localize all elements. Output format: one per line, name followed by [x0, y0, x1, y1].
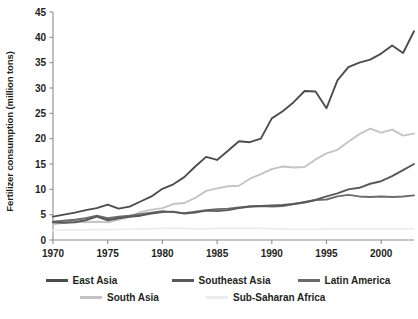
fertilizer-consumption-chart: Fertilizer consumption (million tons) 05… — [0, 0, 418, 319]
x-tick-label: 1975 — [97, 248, 120, 259]
legend-swatch-east-asia — [46, 279, 68, 282]
chart-svg: 051015202530354045 197019751980198519901… — [18, 0, 418, 268]
y-tick-label: 35 — [35, 57, 47, 68]
legend-label-latin-america: Latin America — [325, 275, 391, 286]
legend-label-sub-saharan-africa: Sub-Saharan Africa — [233, 292, 325, 303]
legend-swatch-southeast-asia — [172, 279, 194, 282]
x-tick-marks — [53, 240, 381, 244]
series-line-southeast-asia — [53, 164, 414, 223]
y-tick-label: 30 — [35, 83, 47, 94]
x-tick-labels: 1970197519801985199019952000 — [42, 248, 393, 259]
y-tick-label: 20 — [35, 133, 47, 144]
x-tick-label: 1990 — [261, 248, 284, 259]
plot-area: 051015202530354045 197019751980198519901… — [18, 0, 418, 268]
legend-item-southeast-asia[interactable]: Southeast Asia — [172, 275, 280, 286]
legend-swatch-latin-america — [298, 279, 320, 282]
legend-label-east-asia: East Asia — [73, 275, 118, 286]
y-tick-label: 5 — [40, 209, 46, 220]
series-line-sub-saharan-africa — [53, 228, 414, 230]
y-tick-labels: 051015202530354045 — [35, 7, 47, 246]
data-series-group — [53, 31, 414, 230]
y-tick-label: 45 — [35, 7, 47, 18]
legend-label-southeast-asia: Southeast Asia — [199, 275, 271, 286]
y-axis-label: Fertilizer consumption (million tons) — [0, 0, 18, 262]
legend-swatch-south-asia — [80, 296, 102, 299]
y-tick-label: 10 — [35, 184, 47, 195]
y-tick-label: 40 — [35, 32, 47, 43]
legend-row-1: East Asia Southeast Asia Latin America — [18, 272, 418, 289]
series-line-east-asia — [53, 31, 414, 216]
x-tick-label: 1985 — [206, 248, 229, 259]
x-tick-label: 2000 — [370, 248, 393, 259]
y-tick-label: 25 — [35, 108, 47, 119]
legend-swatch-sub-saharan-africa — [206, 296, 228, 299]
legend-item-latin-america[interactable]: Latin America — [298, 275, 391, 286]
x-tick-label: 1970 — [42, 248, 65, 259]
y-tick-label: 0 — [40, 235, 46, 246]
legend-item-sub-saharan-africa[interactable]: Sub-Saharan Africa — [206, 292, 356, 303]
x-tick-label: 1980 — [151, 248, 174, 259]
legend-label-south-asia: South Asia — [107, 292, 159, 303]
y-tick-label: 15 — [35, 159, 47, 170]
y-axis-label-text: Fertilizer consumption (million tons) — [4, 51, 15, 211]
legend-item-south-asia[interactable]: South Asia — [80, 292, 188, 303]
legend-row-2: South Asia Sub-Saharan Africa — [18, 289, 418, 306]
chart-legend: East Asia Southeast Asia Latin America S… — [18, 272, 418, 319]
x-tick-label: 1995 — [315, 248, 338, 259]
legend-item-east-asia[interactable]: East Asia — [46, 275, 154, 286]
